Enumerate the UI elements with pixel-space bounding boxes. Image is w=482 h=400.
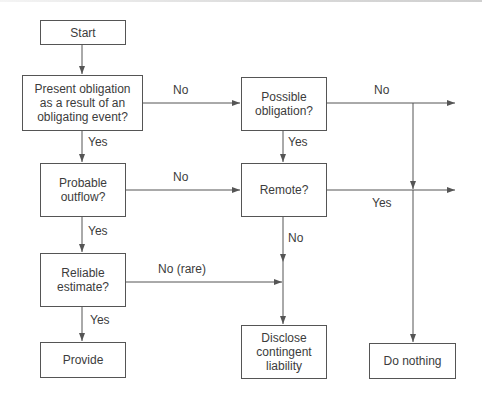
node-present-obligation: Present obligation as a result of an obl…: [22, 75, 143, 131]
edge-label-probable-no: No: [173, 170, 188, 184]
edge-label-remote-no: No: [288, 231, 303, 245]
node-possible-obligation: Possible obligation?: [241, 77, 327, 131]
edge-label-remote-yes: Yes: [372, 196, 392, 210]
edge-label-reliable-yes: Yes: [90, 313, 110, 327]
node-do-nothing: Do nothing: [369, 343, 456, 379]
edge-label-possible-no: No: [374, 83, 389, 97]
node-disclose-contingent-liability: Disclose contingent liability: [241, 325, 327, 379]
node-probable-outflow: Probable outflow?: [40, 163, 126, 217]
node-remote: Remote?: [241, 163, 327, 217]
edge-label-present-yes: Yes: [88, 135, 108, 149]
node-reliable-estimate: Reliable estimate?: [40, 253, 126, 307]
edge-label-possible-yes: Yes: [288, 135, 308, 149]
edge-label-present-no: No: [173, 83, 188, 97]
edge-label-probable-yes: Yes: [88, 224, 108, 238]
node-start: Start: [40, 20, 126, 45]
edge-label-reliable-no-rare: No (rare): [158, 262, 206, 276]
node-provide: Provide: [40, 342, 126, 378]
